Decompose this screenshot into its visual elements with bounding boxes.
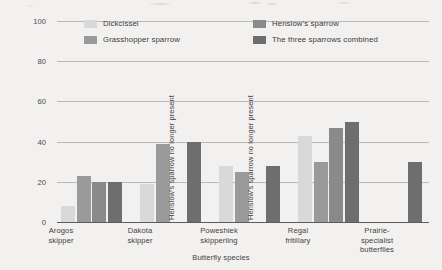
y-axis-ticks: 100 80 60 40 20 0 xyxy=(0,21,52,222)
bar-arogos-dickcissel xyxy=(61,206,75,222)
legend-item-dickcissel[interactable]: Dickcissel xyxy=(84,19,139,28)
legend-label-dickcissel: Dickcissel xyxy=(103,19,139,28)
annotation-dakota-henslows-absent: Henslow's sparrow no longer present xyxy=(167,90,176,220)
grouped-bar-chart: Correlation with sparrows ( percent) 100… xyxy=(0,0,442,270)
bar-group-arogos-skipper xyxy=(61,21,129,222)
x-label-line2: fritillary xyxy=(261,236,335,246)
legend-swatch-three-sparrows-combined xyxy=(253,36,266,44)
y-tick-40: 40 xyxy=(38,137,46,146)
chart-legend: Dickcissel Grasshopper sparrow Henslow's… xyxy=(84,19,414,51)
legend-item-henslows-sparrow[interactable]: Henslow's sparrow xyxy=(253,19,339,28)
legend-label-grasshopper-sparrow: Grasshopper sparrow xyxy=(103,35,180,44)
legend-label-three-sparrows-combined: The three sparrows combined xyxy=(272,35,378,44)
legend-swatch-henslows-sparrow xyxy=(253,20,266,28)
bar-dakota-dickcissel xyxy=(140,184,154,222)
x-label-poweshiek-skipperling: Poweshiek skipperling xyxy=(182,226,256,245)
legend-item-three-sparrows-combined[interactable]: The three sparrows combined xyxy=(253,35,378,44)
bar-poweshiek-combined xyxy=(266,166,280,222)
bar-poweshiek-dickcissel xyxy=(219,166,233,222)
x-label-line2: skipper xyxy=(103,236,177,246)
x-label-arogos-skipper: Arogos skipper xyxy=(24,226,98,245)
bar-arogos-henslows xyxy=(92,182,106,222)
bar-arogos-grasshopper xyxy=(77,176,91,222)
x-axis-title: Butterfly species xyxy=(0,253,442,262)
x-label-line2: skipper xyxy=(24,236,98,246)
x-label-dakota-skipper: Dakota skipper xyxy=(103,226,177,245)
plot-area: Henslow's sparrow no longer present Hens… xyxy=(57,21,429,222)
bar-arogos-combined xyxy=(108,182,122,222)
annotation-poweshiek-henslows-absent: Henslow's sparrow no longer present xyxy=(246,90,255,220)
bar-regal-grasshopper xyxy=(314,162,328,222)
bar-dakota-combined xyxy=(187,142,201,222)
y-tick-20: 20 xyxy=(38,177,46,186)
bar-group-poweshiek-skipperling: Henslow's sparrow no longer present xyxy=(219,21,287,222)
legend-label-henslows-sparrow: Henslow's sparrow xyxy=(272,19,339,28)
x-label-line2: specialist xyxy=(340,236,414,246)
y-tick-80: 80 xyxy=(38,57,46,66)
x-label-line1: Dakota xyxy=(103,226,177,236)
legend-swatch-grasshopper-sparrow xyxy=(84,36,97,44)
x-label-line2: skipperling xyxy=(182,236,256,246)
bar-group-regal-fritillary xyxy=(298,21,366,222)
y-tick-100: 100 xyxy=(33,17,46,26)
x-label-line1: Poweshiek xyxy=(182,226,256,236)
bar-prairie-combined xyxy=(408,162,422,222)
x-label-line1: Regal xyxy=(261,226,335,236)
x-label-line1: Prairie- xyxy=(340,226,414,236)
legend-item-grasshopper-sparrow[interactable]: Grasshopper sparrow xyxy=(84,35,180,44)
bar-group-dakota-skipper: Henslow's sparrow no longer present xyxy=(140,21,208,222)
y-tick-60: 60 xyxy=(38,97,46,106)
bar-regal-henslows xyxy=(329,128,343,223)
x-label-prairie-specialist-butterflies: Prairie- specialist butterflies xyxy=(340,226,414,255)
bar-regal-dickcissel xyxy=(298,136,312,222)
x-label-regal-fritillary: Regal fritillary xyxy=(261,226,335,245)
bar-regal-combined xyxy=(345,122,359,223)
legend-swatch-dickcissel xyxy=(84,20,97,28)
x-label-line1: Arogos xyxy=(24,226,98,236)
bar-group-prairie-specialist-butterflies xyxy=(377,21,442,222)
